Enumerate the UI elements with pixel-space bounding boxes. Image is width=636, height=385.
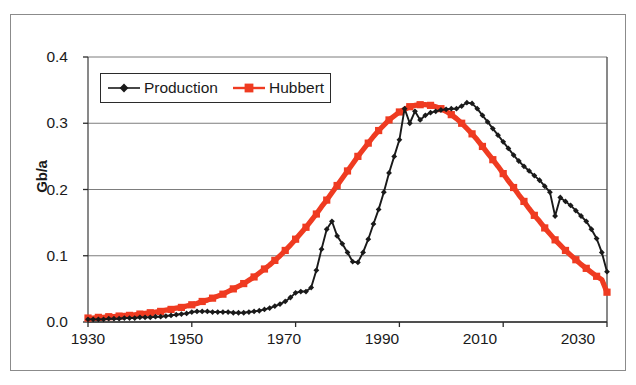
series-hubbert-line [84,101,610,322]
legend-entry-production: Production [107,79,218,97]
legend-label-hubbert: Hubbert [269,79,324,97]
legend-label-production: Production [144,79,218,97]
y-tick-label-0-4: 0.4 [22,48,68,66]
y-tick-label-0-1: 0.1 [22,247,68,265]
x-tick-label-2030: 2030 [548,330,608,348]
chart-legend: Production Hubbert [100,73,331,103]
chart-plot-canvas [0,0,636,385]
x-tick-label-1990: 1990 [352,330,412,348]
y-tick-label-0-0: 0.0 [22,313,68,331]
y-tick-label-0-3: 0.3 [22,114,68,132]
diamond-marker [107,81,141,95]
x-tick-label-1950: 1950 [156,330,216,348]
chart-figure: Gb/a 0.4 0.3 0.2 0.1 0.0 1930 1950 1970 … [0,0,636,385]
square-marker [232,81,266,95]
x-tick-label-2010: 2010 [450,330,510,348]
y-axis-title: Gb/a [33,132,50,222]
x-tick-label-1930: 1930 [58,330,118,348]
y-tick-label-0-2: 0.2 [22,181,68,199]
legend-entry-hubbert: Hubbert [232,79,324,97]
x-tick-label-1970: 1970 [254,330,314,348]
